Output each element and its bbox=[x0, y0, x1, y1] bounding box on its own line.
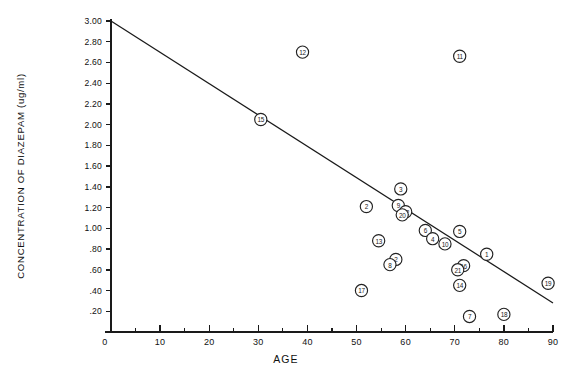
y-axis-title: CONCENTRATION OF DIAZEPAM (ug/ml) bbox=[15, 73, 26, 279]
y-tick-label: .20 bbox=[89, 306, 102, 316]
y-tick-label: 2.80 bbox=[84, 37, 102, 47]
x-tick-label: 50 bbox=[351, 337, 362, 347]
data-point-label: 14 bbox=[456, 282, 463, 289]
data-point-label: 17 bbox=[358, 287, 365, 294]
data-point: 5 bbox=[454, 225, 466, 237]
y-tick-label: 1.20 bbox=[84, 203, 102, 213]
x-tick-label: 10 bbox=[155, 337, 166, 347]
scatter-plot: CONCENTRATION OF DIAZEPAM (ug/ml) .20.40… bbox=[0, 0, 564, 376]
data-point-label: 15 bbox=[258, 116, 265, 123]
data-point: 12 bbox=[296, 46, 308, 58]
x-axis-title: AGE bbox=[273, 353, 298, 365]
y-tick-label: 3.00 bbox=[84, 16, 102, 26]
x-tick-label: 60 bbox=[400, 337, 411, 347]
data-point: 15 bbox=[255, 113, 267, 125]
y-axis-ticks: .20.40.60.801.001.201.401.601.802.002.20… bbox=[84, 16, 111, 316]
y-tick-label: 2.00 bbox=[84, 120, 102, 130]
x-axis-ticks: 0102030405060708090 bbox=[102, 325, 558, 347]
data-point-label: 18 bbox=[501, 311, 508, 318]
x-tick-label: 80 bbox=[499, 337, 510, 347]
data-points: 121115392222065413101281621191417187 bbox=[255, 46, 555, 323]
x-axis-title-text: AGE bbox=[273, 353, 298, 365]
x-tick-label: 70 bbox=[449, 337, 460, 347]
chart-figure: CONCENTRATION OF DIAZEPAM (ug/ml) .20.40… bbox=[0, 0, 564, 376]
data-point: 11 bbox=[454, 50, 466, 62]
data-point: 2 bbox=[360, 200, 372, 212]
y-tick-label: 2.60 bbox=[84, 57, 102, 67]
data-point-label: 21 bbox=[454, 267, 461, 274]
x-tick-label: 40 bbox=[302, 337, 313, 347]
data-point-label: 11 bbox=[457, 53, 464, 60]
data-point-label: 10 bbox=[442, 241, 449, 248]
data-point: 10 bbox=[439, 238, 451, 250]
data-point-label: 12 bbox=[299, 49, 306, 56]
data-point: 8 bbox=[384, 259, 396, 271]
data-point: 7 bbox=[463, 310, 475, 322]
y-tick-label: 1.80 bbox=[84, 140, 102, 150]
y-tick-label: 1.00 bbox=[84, 223, 102, 233]
x-tick-label: 30 bbox=[253, 337, 264, 347]
x-tick-label: 90 bbox=[548, 337, 559, 347]
y-tick-label: 1.40 bbox=[84, 182, 102, 192]
y-axis-title-text: CONCENTRATION OF DIAZEPAM (ug/ml) bbox=[15, 73, 26, 279]
y-tick-label: .40 bbox=[89, 286, 102, 296]
data-point: 18 bbox=[498, 308, 510, 320]
y-tick-label: .80 bbox=[89, 244, 102, 254]
data-point: 1 bbox=[481, 248, 493, 260]
data-point-label: 13 bbox=[375, 238, 382, 245]
x-tick-label: 20 bbox=[204, 337, 215, 347]
data-point: 20 bbox=[396, 209, 408, 221]
y-tick-label: 2.40 bbox=[84, 78, 102, 88]
data-point: 3 bbox=[395, 183, 407, 195]
data-point: 19 bbox=[542, 277, 554, 289]
data-point-label: 19 bbox=[545, 280, 552, 287]
axes bbox=[105, 19, 553, 332]
y-tick-label: 1.60 bbox=[84, 161, 102, 171]
y-tick-label: 2.20 bbox=[84, 99, 102, 109]
data-point: 17 bbox=[355, 284, 367, 296]
x-tick-label: 0 bbox=[102, 337, 107, 347]
data-point: 13 bbox=[373, 235, 385, 247]
data-point: 14 bbox=[454, 279, 466, 291]
data-point: 4 bbox=[427, 233, 439, 245]
y-tick-label: .60 bbox=[89, 265, 102, 275]
data-point-label: 20 bbox=[399, 212, 406, 219]
data-point: 21 bbox=[452, 264, 464, 276]
